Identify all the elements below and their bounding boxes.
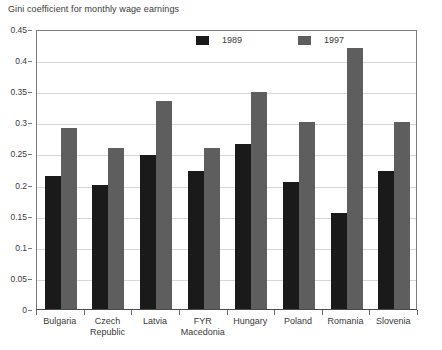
y-axis-tick-label: 0.25 (10, 150, 27, 159)
x-axis-tick-mark (369, 310, 370, 315)
y-axis-tick-mark (28, 61, 32, 62)
y-axis-tick-label: 0.3 (15, 119, 27, 128)
legend-swatch (298, 36, 311, 45)
bar (235, 144, 251, 310)
x-axis-tick-mark (36, 310, 37, 315)
y-axis-tick-mark (28, 186, 32, 187)
legend-label: 1997 (324, 36, 344, 45)
y-axis-tick-label: 0.1 (15, 244, 27, 253)
bar-chart: Gini coefficient for monthly wage earnin… (0, 0, 442, 350)
y-axis-tick-mark (28, 30, 32, 31)
legend-item: 1997 (298, 36, 344, 45)
legend-swatch (196, 36, 209, 45)
bar (299, 122, 315, 309)
y-axis-tick-label: 0.45 (10, 26, 27, 35)
x-axis-tick-mark (322, 310, 323, 315)
bar (188, 171, 204, 309)
y-axis-tick-mark (28, 154, 32, 155)
y-axis-tick-mark (28, 123, 32, 124)
y-axis-tick-label: 0.15 (10, 212, 27, 221)
y-axis-tick-mark (28, 217, 32, 218)
x-axis-labels: BulgariaCzech RepublicLatviaFYR Macedoni… (36, 316, 417, 348)
bar (61, 128, 77, 309)
bar (347, 48, 363, 309)
y-axis-tick-label: 0.2 (15, 181, 27, 190)
y-axis-tick-mark (28, 279, 32, 280)
y-axis-tick-mark (28, 92, 32, 93)
bar (204, 148, 220, 309)
x-axis-tick-mark (131, 310, 132, 315)
x-axis-tick-mark (179, 310, 180, 315)
bar (92, 185, 108, 309)
legend-label: 1989 (222, 36, 242, 45)
x-axis-tick-mark (227, 310, 228, 315)
bar (45, 176, 61, 309)
chart-title: Gini coefficient for monthly wage earnin… (8, 3, 179, 15)
bar (283, 182, 299, 309)
bar (394, 122, 410, 309)
bar (108, 148, 124, 309)
legend-item: 1989 (196, 36, 242, 45)
y-axis-tick-label: 0.35 (10, 88, 27, 97)
x-axis-category-label: Slovenia (358, 316, 428, 327)
x-axis-tick-mark (274, 310, 275, 315)
x-axis-ticks (36, 310, 417, 315)
y-axis-tick-label: 0.05 (10, 275, 27, 284)
bar (251, 92, 267, 309)
plot-area (36, 30, 417, 310)
x-axis-tick-mark (417, 310, 418, 315)
bar (140, 155, 156, 309)
bar (331, 213, 347, 309)
y-axis-tick-label: 0 (22, 306, 27, 315)
bars-layer (37, 31, 416, 309)
y-axis-tick-mark (28, 248, 32, 249)
bar (156, 101, 172, 309)
bar (378, 171, 394, 309)
x-axis-tick-mark (84, 310, 85, 315)
y-axis: 00.050.10.150.20.250.30.350.40.45 (0, 30, 32, 310)
chart-legend: 19891997 (196, 33, 344, 47)
y-axis-tick-label: 0.4 (15, 57, 27, 66)
y-axis-tick-mark (28, 310, 32, 311)
